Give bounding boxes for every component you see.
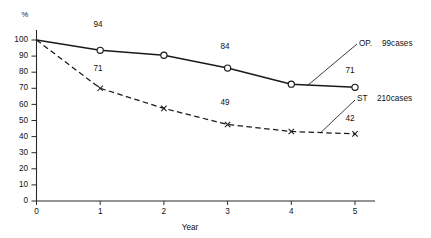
series-op-marker-y1 bbox=[97, 47, 103, 53]
y-tick-label-50: 50 bbox=[19, 116, 29, 125]
y-tick-label-30: 30 bbox=[19, 148, 29, 157]
legend-st: ST 210cases bbox=[321, 94, 413, 133]
x-tick-label-1: 1 bbox=[98, 207, 103, 216]
series-op-label-y3: 84 bbox=[220, 42, 230, 51]
y-tick-label-100: 100 bbox=[14, 35, 28, 44]
y-tick-label-70: 70 bbox=[19, 83, 29, 92]
y-tick-label-80: 80 bbox=[19, 67, 29, 76]
series-st-label-y3: 49 bbox=[220, 98, 230, 107]
series-op: 94 84 71 bbox=[37, 20, 359, 90]
legend-op-name: OP. bbox=[359, 39, 372, 48]
legend-op-cases: 99cases bbox=[382, 39, 413, 48]
legend-st-name: ST bbox=[357, 94, 367, 103]
y-tick-label-60: 60 bbox=[19, 100, 29, 109]
x-tick-label-4: 4 bbox=[289, 207, 294, 216]
series-st-label-y1: 71 bbox=[93, 64, 103, 73]
series-op-marker-y5 bbox=[352, 84, 358, 90]
x-tick-label-3: 3 bbox=[225, 207, 230, 216]
series-st-line bbox=[37, 40, 356, 134]
y-tick-label-20: 20 bbox=[19, 164, 29, 173]
x-tick-label-0: 0 bbox=[34, 207, 39, 216]
series-op-marker-y2 bbox=[161, 52, 167, 58]
series-st: 71 49 42 bbox=[37, 40, 358, 137]
y-tick-label-0: 0 bbox=[23, 196, 28, 205]
x-tick-label-2: 2 bbox=[162, 207, 167, 216]
series-op-line bbox=[37, 40, 356, 87]
legend-op: OP. 99cases bbox=[308, 39, 413, 86]
y-tick-label-10: 10 bbox=[19, 180, 29, 189]
survival-curve-chart: 0 10 20 30 40 50 60 70 80 90 100 % 0 1 2… bbox=[0, 0, 431, 238]
chart-canvas: 0 10 20 30 40 50 60 70 80 90 100 % 0 1 2… bbox=[0, 0, 431, 238]
y-axis-unit-label: % bbox=[22, 10, 29, 19]
series-op-label-y1: 94 bbox=[93, 20, 103, 29]
x-tick-label-5: 5 bbox=[353, 207, 358, 216]
series-op-marker-y4 bbox=[288, 81, 294, 87]
series-op-marker-y3 bbox=[225, 65, 231, 71]
series-op-label-y5: 71 bbox=[345, 66, 355, 75]
legend-st-cases: 210cases bbox=[377, 94, 412, 103]
series-st-label-y5: 42 bbox=[345, 114, 355, 123]
y-tick-group: 0 10 20 30 40 50 60 70 80 90 100 bbox=[14, 35, 36, 205]
y-tick-label-40: 40 bbox=[19, 132, 29, 141]
axis-group bbox=[37, 30, 376, 201]
x-axis-title: Year bbox=[182, 223, 199, 232]
x-tick-group: 0 1 2 3 4 5 bbox=[34, 201, 358, 216]
y-tick-label-90: 90 bbox=[19, 51, 29, 60]
